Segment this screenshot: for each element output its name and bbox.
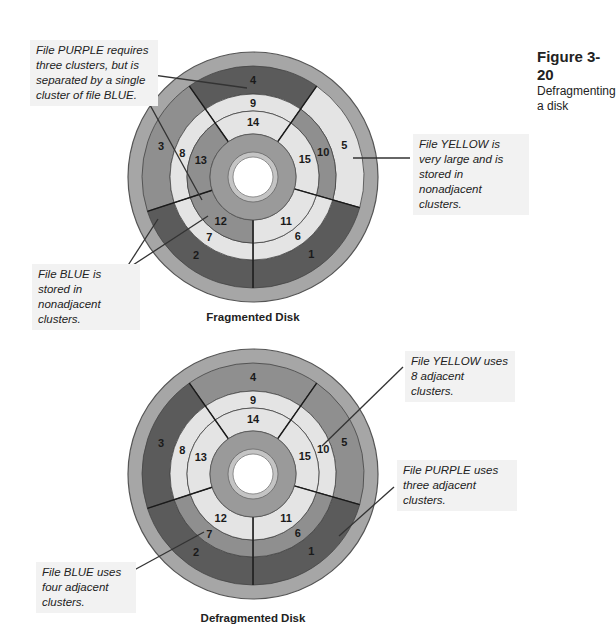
callout-yellow-fragmented: File YELLOW is very large and is stored … <box>413 134 529 215</box>
cluster-label-2: 2 <box>193 249 199 261</box>
cluster-label-1: 1 <box>308 545 314 557</box>
cluster-label-10: 10 <box>317 146 329 158</box>
cluster-label-7: 7 <box>206 231 212 243</box>
cluster-label-8: 8 <box>179 444 185 456</box>
cluster-label-11: 11 <box>280 215 292 227</box>
fragmented-disk: 451239106781415111213 <box>128 52 378 302</box>
cluster-label-6: 6 <box>295 230 301 242</box>
spindle-hole <box>233 454 273 494</box>
cluster-label-2: 2 <box>193 546 199 558</box>
cluster-label-3: 3 <box>158 140 164 152</box>
spindle-hole <box>233 157 273 197</box>
cluster-label-4: 4 <box>250 371 257 383</box>
cluster-label-9: 9 <box>250 97 256 109</box>
cluster-label-3: 3 <box>158 437 164 449</box>
callout-blue-defragmented: File BLUE uses four adjacent clusters. <box>36 562 136 613</box>
cluster-label-7: 7 <box>206 528 212 540</box>
callout-blue-fragmented: File BLUE is stored in nonadjacent clust… <box>32 264 140 330</box>
callout-purple-defragmented: File PURPLE uses three adjacent clusters… <box>397 460 517 511</box>
fragmented-disk-caption: Fragmented Disk <box>153 311 353 323</box>
cluster-label-12: 12 <box>215 215 227 227</box>
figure-number: Figure 3-20 <box>537 48 616 84</box>
cluster-label-13: 13 <box>195 451 207 463</box>
cluster-label-12: 12 <box>215 512 227 524</box>
callout-purple-fragmented: File PURPLE requires three clusters, but… <box>30 40 158 106</box>
figure-caption: Defragmenting a disk <box>537 84 616 114</box>
cluster-label-5: 5 <box>341 436 347 448</box>
cluster-label-1: 1 <box>308 248 314 260</box>
cluster-label-13: 13 <box>195 154 207 166</box>
cluster-label-9: 9 <box>250 394 256 406</box>
cluster-label-15: 15 <box>299 153 311 165</box>
cluster-label-14: 14 <box>247 413 260 425</box>
cluster-label-11: 11 <box>280 512 292 524</box>
cluster-label-5: 5 <box>341 139 347 151</box>
defragmented-disk: 451239106781415111213 <box>128 349 378 599</box>
cluster-label-4: 4 <box>250 74 257 86</box>
cluster-label-14: 14 <box>247 116 260 128</box>
cluster-label-6: 6 <box>295 527 301 539</box>
callout-yellow-defragmented: File YELLOW uses 8 adjacent clusters. <box>405 351 515 402</box>
cluster-label-8: 8 <box>179 147 185 159</box>
defragmented-disk-caption: Defragmented Disk <box>153 612 353 624</box>
figure-heading: Figure 3-20 Defragmenting a disk <box>537 48 616 114</box>
cluster-label-15: 15 <box>299 450 311 462</box>
